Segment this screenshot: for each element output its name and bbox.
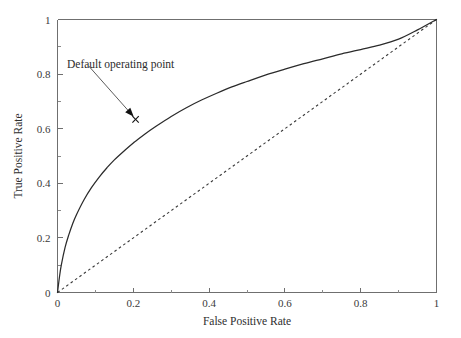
x-tick-label: 0.4 [202, 297, 216, 309]
x-tick-label: 0.2 [126, 297, 140, 309]
annotation-arrow [89, 66, 134, 117]
x-tick-label: 0 [55, 297, 61, 309]
y-tick-label: 0.2 [37, 232, 51, 244]
y-tick-label: 0.8 [37, 68, 51, 80]
operating-point-marker [132, 116, 138, 122]
y-tick-label: 1 [45, 14, 51, 26]
x-tick-label: 0.8 [354, 297, 368, 309]
x-axis-title: False Positive Rate [203, 315, 291, 327]
y-axis-title: True Positive Rate [12, 113, 24, 198]
x-tick-label: 1 [434, 297, 440, 309]
y-tick-label: 0 [45, 287, 51, 299]
x-tick-label: 0.6 [278, 297, 292, 309]
roc-plot-svg: 00.20.40.60.8100.20.40.60.81 Default ope… [0, 0, 461, 338]
roc-chart-figure: 00.20.40.60.8100.20.40.60.81 Default ope… [0, 0, 461, 338]
y-tick-label: 0.6 [37, 123, 51, 135]
y-tick-label: 0.4 [37, 177, 51, 189]
operating-point-annotation-label: Default operating point [67, 58, 175, 71]
annotation-leader-line [89, 66, 133, 115]
